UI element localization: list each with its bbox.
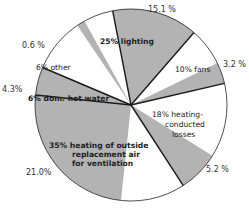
pie-chart: 15.1 % 3.2 % 5.2 % 21.0% 4.3% 0.6 % 25% … [0,0,249,211]
label-heating-conducted-line2: conducted [165,120,205,129]
label-lighting-text: 25% lighting [100,37,154,46]
label-lighting-sub: 15.1 % [148,5,176,14]
label-ventilation-line1: 35% heating of outside [49,141,148,150]
label-fans: 10% fans [175,65,210,74]
label-heating-conducted-line1: 18% heating- [152,110,203,119]
label-other: 6% other [36,63,72,72]
label-heating-conducted-sub: 5.2 % [206,165,229,174]
label-dom-hot-water-sub: 4.3% [2,85,23,94]
label-ventilation-line2: replacement air [72,150,140,159]
label-fans-sub: 3.2 % [223,60,246,69]
label-heating-conducted-line3: losses [172,130,195,139]
label-ventilation-line3: for ventilation [72,159,133,168]
label-lighting: 25% lighting [100,37,154,46]
label-other-sub: 0.6 % [22,41,45,50]
label-dom-hot-water: 6% dom. hot water [28,94,109,103]
label-ventilation-sub: 21.0% [26,168,52,177]
